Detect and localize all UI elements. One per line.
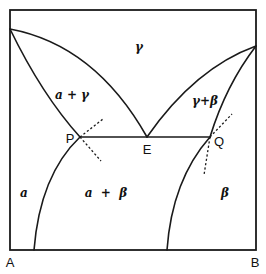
label-alpha-beta: a + β <box>85 186 128 200</box>
solvus-beta <box>167 137 210 250</box>
label-beta: β <box>220 186 229 200</box>
metastable-extension-p-down <box>80 137 101 161</box>
label-gamma-beta: γ+β <box>192 94 218 108</box>
component-label-b: B <box>251 255 260 270</box>
metastable-extension-p-up <box>80 119 103 137</box>
point-label-p: P <box>66 131 75 146</box>
point-label-q: Q <box>214 134 224 149</box>
liquidus-left <box>10 29 147 137</box>
label-alpha-gamma: a + γ <box>55 88 90 102</box>
label-alpha: a <box>20 186 28 200</box>
solvus-alpha <box>34 137 80 250</box>
diagram-frame <box>10 10 256 250</box>
liquidus-right <box>147 46 256 137</box>
component-label-a: A <box>6 255 15 270</box>
phase-diagram: γ a + γ γ+β a a + β β P E Q A B <box>0 0 266 274</box>
solidus-right <box>210 46 256 137</box>
solidus-left <box>10 29 80 137</box>
point-label-e: E <box>143 142 152 157</box>
label-gamma: γ <box>135 40 144 54</box>
